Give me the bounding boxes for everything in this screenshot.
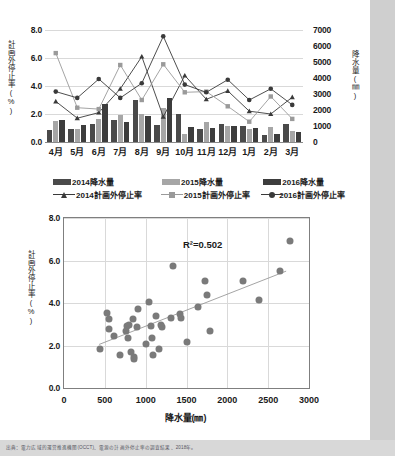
legend-swatch-icon	[162, 179, 180, 185]
legend-label: 2015計画外停止率	[184, 189, 250, 200]
x-axis-tick-label: 6月	[92, 145, 106, 158]
x-axis-tick-label: 2500	[258, 395, 278, 405]
legend-row-lines: 2014計画外停止率2015計画外停止率2016計画外停止率	[45, 189, 345, 200]
legend-label: 2016計画外停止率	[279, 189, 345, 200]
data-point-marker	[139, 81, 144, 86]
report-page: 計画外停止率(%) 降水量(㎜) 0.02.04.06.08.0 0100020…	[0, 0, 370, 440]
data-point-marker	[118, 63, 122, 67]
scatter-point	[287, 238, 294, 245]
x-axis-tick-label: 3月	[285, 145, 299, 158]
secondary-y-axis-tick-label: 4000	[313, 73, 345, 83]
scatter-point	[277, 268, 284, 275]
x-axis-tick-label: 1500	[176, 395, 196, 405]
data-point-marker	[247, 98, 252, 103]
legend-item-2015計画外停止率[interactable]: 2015計画外停止率	[161, 189, 261, 200]
scatter-point	[130, 315, 137, 322]
data-point-marker	[204, 90, 209, 95]
legend-item-2016計画外停止率[interactable]: 2016計画外停止率	[261, 189, 345, 200]
y-axis-tick-label: 8.0	[14, 25, 42, 35]
y-axis-tick-label: 4.0	[32, 298, 60, 308]
x-axis-tick-label: 3000	[299, 395, 319, 405]
scatter-point	[159, 324, 166, 331]
data-point-marker	[118, 96, 123, 101]
data-point-marker	[54, 51, 58, 55]
secondary-y-axis-tick-label: 0	[313, 137, 345, 147]
x-axis-tick-label: 9月	[156, 145, 170, 158]
x-axis-tick-label: 8月	[135, 145, 149, 158]
legend-item-2014計画外停止率[interactable]: 2014計画外停止率	[45, 189, 161, 200]
x-axis-tick-label: 0	[61, 395, 66, 405]
bar-chart-plot-area	[45, 30, 303, 142]
legend-line-marker-icon	[53, 190, 75, 199]
scatter-point	[147, 323, 154, 330]
data-point-marker	[97, 107, 101, 111]
scatter-point	[203, 291, 210, 298]
scatter-point	[167, 314, 174, 321]
secondary-y-axis-tick-label: 2000	[313, 105, 345, 115]
scatter-point	[194, 304, 201, 311]
legend-item-2016降水量[interactable]: 2016降水量	[263, 176, 345, 187]
scatter-point	[96, 345, 103, 352]
scatter-point	[110, 332, 117, 339]
data-point-marker	[53, 99, 58, 104]
x-axis-tick-label: 5月	[70, 145, 84, 158]
scatter-point	[124, 335, 131, 342]
scatter-point	[207, 327, 214, 334]
scatter-point	[133, 324, 140, 331]
data-point-marker	[247, 120, 251, 124]
scatter-point	[105, 315, 112, 322]
legend-line-marker-icon	[261, 190, 278, 199]
data-point-marker	[96, 77, 101, 82]
scatter-point	[149, 335, 156, 342]
secondary-y-axis-tick-label: 7000	[313, 25, 345, 35]
bar-chart-secondary-y-axis-label: 降水量(㎜)	[350, 50, 359, 130]
scatter-point	[155, 345, 162, 352]
scatter-point	[153, 312, 160, 319]
x-axis-line	[45, 142, 303, 143]
x-axis-tick-label: 11月	[197, 145, 216, 158]
data-point-marker	[290, 117, 294, 121]
scatter-point	[169, 262, 176, 269]
scatter-point	[256, 296, 263, 303]
data-point-marker	[290, 103, 295, 108]
scatter-point	[145, 298, 152, 305]
data-point-marker	[183, 90, 187, 94]
scatter-point	[177, 314, 184, 321]
scatter-point	[202, 277, 209, 284]
data-point-marker	[161, 34, 166, 39]
x-axis-tick-label: 500	[97, 395, 112, 405]
y-axis-tick-label: 2.0	[32, 341, 60, 351]
scatter-point	[150, 352, 157, 359]
scatter-point	[126, 322, 133, 329]
data-point-marker	[290, 95, 295, 100]
scatter-point	[130, 356, 137, 363]
x-axis-tick-label: 4月	[49, 145, 63, 158]
x-axis-tick-label: 7月	[113, 145, 127, 158]
legend-line-marker-icon	[161, 190, 183, 199]
data-point-marker	[268, 87, 273, 92]
scatter-point	[142, 341, 149, 348]
secondary-y-axis-tick-label: 5000	[313, 57, 345, 67]
y-axis-tick-label: 4.0	[14, 81, 42, 91]
data-point-marker	[140, 98, 144, 102]
scatter-point	[105, 325, 112, 332]
r-squared-annotation: R²=0.502	[183, 239, 222, 250]
legend-label: 2016降水量	[282, 176, 324, 187]
scatter-point	[116, 352, 123, 359]
precipitation-vs-outage-scatter-chart: 計画外停止率(%) 0.02.04.06.08.0 05001000150020…	[0, 205, 370, 435]
data-point-marker	[53, 89, 58, 94]
secondary-y-axis-tick-label: 1000	[313, 121, 345, 131]
x-axis-tick-label: 10月	[175, 145, 194, 158]
monthly-precipitation-outage-chart: 計画外停止率(%) 降水量(㎜) 0.02.04.06.08.0 0100020…	[0, 18, 370, 198]
data-point-marker	[75, 106, 79, 110]
data-point-marker	[75, 96, 80, 101]
bar-chart-legend: 2014降水量2015降水量2016降水量2014計画外停止率2015計画外停止…	[45, 176, 345, 202]
scatter-point	[239, 277, 246, 284]
legend-item-2014降水量[interactable]: 2014降水量	[45, 176, 162, 187]
y-axis-tick-label: 6.0	[32, 256, 60, 266]
legend-item-2015降水量[interactable]: 2015降水量	[162, 176, 263, 187]
page-shadow-right	[370, 0, 395, 440]
data-point-marker	[225, 77, 230, 82]
scatter-point	[184, 339, 191, 346]
data-point-marker	[269, 94, 273, 98]
